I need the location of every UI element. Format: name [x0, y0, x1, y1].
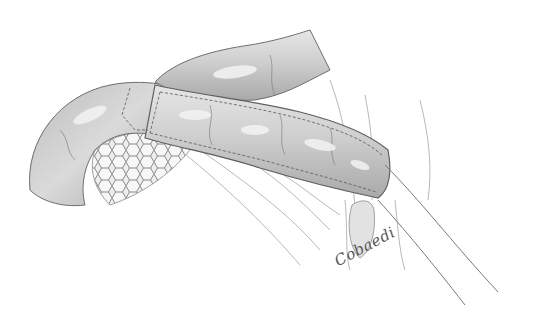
illustration-canvas: Cobaedi: [0, 0, 536, 313]
wrapped-sleeve-segment: [145, 85, 390, 198]
surgical-illustration: [0, 0, 536, 313]
